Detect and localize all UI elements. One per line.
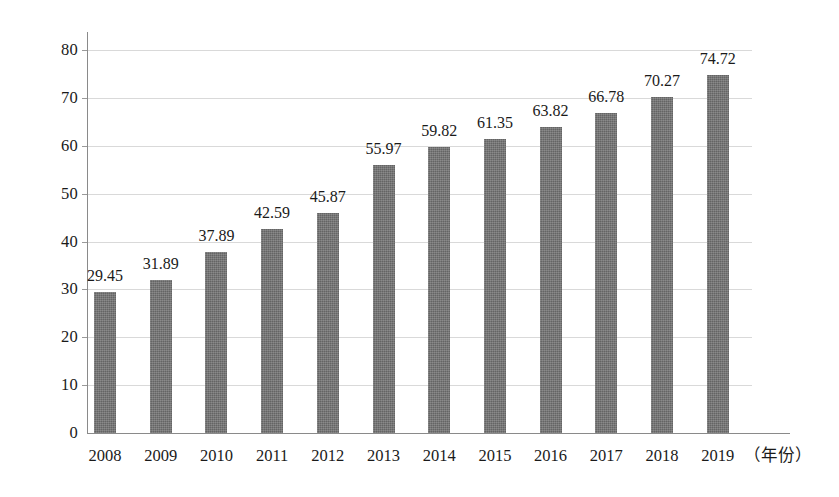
y-axis-tick-label: 40 <box>34 234 78 251</box>
bar-value-label: 45.87 <box>293 189 363 205</box>
bar-value-label: 63.82 <box>516 103 586 119</box>
y-axis-tick-mark <box>82 385 87 386</box>
y-axis-tick-mark <box>82 289 87 290</box>
bar <box>94 292 116 433</box>
bar <box>540 127 562 433</box>
y-axis-tick-label: 50 <box>34 186 78 203</box>
y-axis-tick-mark <box>82 194 87 195</box>
y-axis-tick-labels: 01020304050607080 <box>30 0 78 497</box>
y-axis-tick-label: 0 <box>34 425 78 442</box>
y-axis-tick-mark <box>82 242 87 243</box>
bar-value-label: 42.59 <box>237 205 307 221</box>
y-axis-tick-mark <box>82 337 87 338</box>
y-axis-tick-label: 60 <box>34 138 78 155</box>
y-axis-tick-mark <box>82 146 87 147</box>
x-axis-tick-label: 2019 <box>683 448 753 465</box>
bar <box>651 97 673 433</box>
bar-value-label: 74.72 <box>683 51 753 67</box>
bar-value-label: 70.27 <box>627 73 697 89</box>
bar <box>428 147 450 433</box>
y-axis-tick-mark <box>82 50 87 51</box>
bar-value-label: 66.78 <box>571 89 641 105</box>
bar <box>205 252 227 433</box>
bar <box>150 280 172 433</box>
y-axis-tick-mark <box>82 98 87 99</box>
y-axis-tick-label: 80 <box>34 42 78 59</box>
bar <box>484 139 506 433</box>
bar-value-label: 31.89 <box>126 256 196 272</box>
bar <box>317 213 339 433</box>
bar-value-label: 37.89 <box>181 228 251 244</box>
x-axis-title: （年份） <box>744 448 812 465</box>
bar <box>373 165 395 433</box>
bar-value-label: 55.97 <box>349 141 419 157</box>
bar-chart: 01020304050607080 （年份） 29.45200831.89200… <box>0 0 839 497</box>
bar <box>707 75 729 433</box>
bar <box>261 229 283 433</box>
y-axis-tick-label: 20 <box>34 329 78 346</box>
gridline <box>88 50 752 51</box>
y-axis-tick-label: 70 <box>34 90 78 107</box>
bar <box>595 113 617 433</box>
y-axis-tick-label: 10 <box>34 377 78 394</box>
x-axis-baseline <box>88 433 790 434</box>
